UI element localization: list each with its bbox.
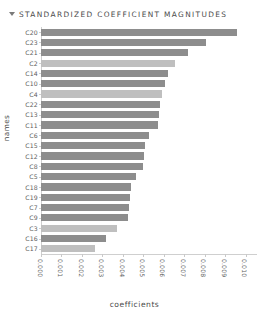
y-tick-label-C19: C19: [14, 194, 38, 201]
y-tick-mark: [39, 146, 42, 147]
y-tick-mark: [39, 239, 42, 240]
y-tick-label-C2: C2: [14, 60, 38, 67]
bar-C11: [41, 121, 158, 128]
bar-C6: [41, 132, 149, 139]
x-tick-label-0.003: 0.003: [98, 259, 105, 277]
y-tick-mark: [39, 228, 42, 229]
y-tick-mark: [39, 63, 42, 64]
x-tick-mark: [102, 254, 103, 257]
y-tick-mark: [39, 135, 42, 136]
bar-C20: [41, 29, 237, 36]
bar-C18: [41, 183, 131, 190]
y-tick-mark: [39, 208, 42, 209]
y-tick-label-C3: C3: [14, 225, 38, 232]
x-tick-mark: [184, 254, 185, 257]
y-tick-label-C11: C11: [14, 122, 38, 129]
y-tick-label-C10: C10: [14, 80, 38, 87]
y-tick-mark: [39, 249, 42, 250]
y-tick-mark: [39, 32, 42, 33]
x-tick-mark: [164, 254, 165, 257]
y-tick-label-C21: C21: [14, 49, 38, 56]
x-tick-mark: [205, 254, 206, 257]
x-tick-label-0.001: 0.001: [57, 259, 64, 277]
x-tick-label-0.009: 0.009: [221, 259, 228, 277]
y-tick-label-C7: C7: [14, 204, 38, 211]
bar-C2: [41, 60, 175, 67]
x-tick-label-0.000: 0.000: [37, 259, 44, 277]
x-tick-mark: [41, 254, 42, 257]
x-tick-label-0.005: 0.005: [139, 259, 146, 277]
x-tick-label-0.007: 0.007: [180, 259, 187, 277]
y-tick-mark: [39, 84, 42, 85]
y-tick-label-C8: C8: [14, 163, 38, 170]
y-tick-mark: [39, 166, 42, 167]
bar-C13: [41, 111, 159, 118]
x-axis-title: coefficients: [0, 300, 269, 309]
bar-C4: [41, 90, 162, 97]
y-tick-mark: [39, 125, 42, 126]
y-tick-label-C16: C16: [14, 235, 38, 242]
y-tick-mark: [39, 177, 42, 178]
y-tick-mark: [39, 104, 42, 105]
x-tick-label-0.008: 0.008: [200, 259, 207, 277]
collapse-triangle-icon[interactable]: [9, 12, 15, 16]
y-tick-label-C6: C6: [14, 132, 38, 139]
y-tick-mark: [39, 115, 42, 116]
x-tick-label-0.006: 0.006: [159, 259, 166, 277]
page-title: STANDARDIZED COEFFICIENT MAGNITUDES: [19, 10, 227, 19]
bar-C17: [41, 245, 95, 252]
y-tick-mark: [39, 53, 42, 54]
y-tick-label-C9: C9: [14, 214, 38, 221]
y-tick-label-C17: C17: [14, 245, 38, 252]
x-tick-mark: [143, 254, 144, 257]
bar-C21: [41, 49, 188, 56]
y-tick-mark: [39, 218, 42, 219]
y-tick-label-C4: C4: [14, 91, 38, 98]
y-tick-label-C18: C18: [14, 184, 38, 191]
y-tick-label-C23: C23: [14, 39, 38, 46]
bar-C8: [41, 163, 143, 170]
y-tick-label-C14: C14: [14, 70, 38, 77]
y-tick-mark: [39, 197, 42, 198]
bar-C7: [41, 204, 129, 211]
y-tick-mark: [39, 187, 42, 188]
y-tick-label-C20: C20: [14, 29, 38, 36]
y-tick-mark: [39, 73, 42, 74]
x-tick-mark: [225, 254, 226, 257]
bar-C19: [41, 194, 130, 201]
x-tick-mark: [82, 254, 83, 257]
y-tick-label-C15: C15: [14, 142, 38, 149]
bar-C16: [41, 235, 106, 242]
x-tick-mark: [61, 254, 62, 257]
x-tick-label-0.002: 0.002: [78, 259, 85, 277]
bar-C12: [41, 152, 144, 159]
x-tick-label-0.004: 0.004: [119, 259, 126, 277]
bar-C15: [41, 142, 145, 149]
x-tick-label-0.010: 0.010: [241, 259, 248, 277]
y-tick-mark: [39, 94, 42, 95]
y-tick-label-C12: C12: [14, 153, 38, 160]
chart-title-row: STANDARDIZED COEFFICIENT MAGNITUDES: [10, 8, 227, 20]
y-tick-label-C13: C13: [14, 111, 38, 118]
y-tick-label-C22: C22: [14, 101, 38, 108]
bar-C23: [41, 39, 206, 46]
bar-C3: [41, 225, 117, 232]
chart-figure: STANDARDIZED COEFFICIENT MAGNITUDES C20C…: [0, 0, 269, 325]
y-tick-mark: [39, 42, 42, 43]
x-tick-mark: [246, 254, 247, 257]
y-tick-mark: [39, 156, 42, 157]
bar-C9: [41, 214, 128, 221]
x-tick-mark: [123, 254, 124, 257]
y-axis-title: names: [2, 115, 11, 142]
y-tick-label-C5: C5: [14, 173, 38, 180]
bar-C14: [41, 70, 168, 77]
bar-C22: [41, 101, 160, 108]
bar-C5: [41, 173, 136, 180]
bar-C10: [41, 80, 165, 87]
